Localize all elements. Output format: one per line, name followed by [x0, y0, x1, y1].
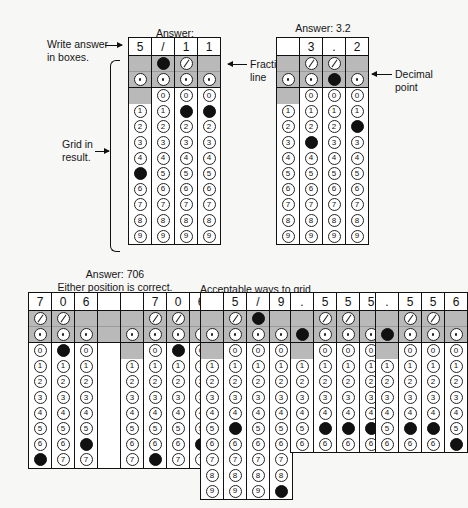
- written-answer-box[interactable]: [201, 293, 223, 311]
- written-answer-box[interactable]: /: [247, 293, 269, 311]
- bubble-1[interactable]: 1: [381, 360, 394, 373]
- bubble-6[interactable]: 6: [282, 183, 295, 196]
- fraction-slash-bubble[interactable]: [305, 57, 318, 70]
- bubble-cell-8[interactable]: 8: [129, 213, 151, 229]
- bubble-0[interactable]: 0: [319, 344, 332, 357]
- bubble-filled-6[interactable]: 6: [450, 438, 463, 451]
- fraction-slash-bubble[interactable]: [34, 312, 47, 325]
- bubble-cell-6[interactable]: 6: [29, 437, 51, 453]
- bubble-9[interactable]: 9: [351, 230, 364, 243]
- bubble-cell-4[interactable]: 4: [121, 405, 143, 421]
- bubble-cell-4[interactable]: 4: [198, 150, 220, 166]
- bubble-cell-6[interactable]: 6: [399, 437, 421, 453]
- bubble-0[interactable]: 0: [404, 344, 417, 357]
- bubble-0[interactable]: 0: [203, 89, 216, 102]
- bubble-3[interactable]: 3: [126, 391, 139, 404]
- bubble-0[interactable]: 0: [275, 344, 288, 357]
- bubble-cell-6[interactable]: 6: [121, 437, 143, 453]
- bubble-4[interactable]: 4: [351, 152, 364, 165]
- bubble-cell-7[interactable]: 7: [201, 452, 223, 468]
- written-answer-box[interactable]: [277, 38, 299, 56]
- bubble-cell-4[interactable]: 4: [52, 405, 74, 421]
- bubble-cell-6[interactable]: 6: [291, 437, 313, 453]
- bubble-cell-2[interactable]: 2: [376, 374, 398, 390]
- bubble-5[interactable]: 5: [34, 422, 47, 435]
- bubble-cell-0[interactable]: 0: [75, 343, 97, 359]
- bubble-cell-3[interactable]: 3: [277, 135, 299, 151]
- bubble-cell-7[interactable]: 7: [129, 197, 151, 213]
- bubble-cell-4[interactable]: 4: [314, 405, 336, 421]
- bubble-cell-0[interactable]: 0: [167, 343, 189, 359]
- bubble-cell-6[interactable]: 6: [167, 437, 189, 453]
- bubble-4[interactable]: 4: [149, 407, 162, 420]
- bubble-6[interactable]: 6: [57, 438, 70, 451]
- bubble-cell-9[interactable]: 9: [323, 228, 345, 244]
- bubble-6[interactable]: 6: [351, 183, 364, 196]
- written-answer-box[interactable]: 5: [224, 293, 246, 311]
- bubble-cell-1[interactable]: 1: [314, 359, 336, 375]
- decimal-point-bubble[interactable]: [450, 328, 463, 341]
- bubble-cell-5[interactable]: 5: [314, 421, 336, 437]
- bubble-0[interactable]: 0: [252, 344, 265, 357]
- bubble-2[interactable]: 2: [80, 375, 93, 388]
- written-answer-box[interactable]: 7: [144, 293, 166, 311]
- fraction-slash-bubble[interactable]: [342, 312, 355, 325]
- bubble-cell-5[interactable]: 5: [52, 421, 74, 437]
- bubble-filled-2[interactable]: 2: [351, 120, 364, 133]
- bubble-cell-5[interactable]: 5: [291, 421, 313, 437]
- bubble-cell-2[interactable]: 2: [175, 119, 197, 135]
- bubble-cell-7[interactable]: 7: [75, 452, 97, 468]
- bubble-2[interactable]: 2: [57, 375, 70, 388]
- bubble-4[interactable]: 4: [282, 152, 295, 165]
- bubble-9[interactable]: 9: [203, 230, 216, 243]
- bubble-2[interactable]: 2: [404, 375, 417, 388]
- bubble-3[interactable]: 3: [229, 391, 242, 404]
- bubble-filled-1[interactable]: 1: [180, 105, 193, 118]
- bubble-cell-0[interactable]: 0: [346, 88, 368, 104]
- decimal-point-bubble[interactable]: [342, 328, 355, 341]
- bubble-cell-2[interactable]: 2: [247, 374, 269, 390]
- bubble-filled-0[interactable]: 0: [172, 344, 185, 357]
- bubble-cell-0[interactable]: 0: [270, 343, 292, 359]
- bubble-cell-3[interactable]: 3: [175, 135, 197, 151]
- bubble-cell-9[interactable]: 9: [346, 228, 368, 244]
- bubble-cell-2[interactable]: 2: [167, 374, 189, 390]
- bubble-8[interactable]: 8: [157, 214, 170, 227]
- decimal-point-bubble[interactable]: [206, 328, 219, 341]
- bubble-2[interactable]: 2: [342, 375, 355, 388]
- bubble-0[interactable]: 0: [229, 344, 242, 357]
- bubble-2[interactable]: 2: [427, 375, 440, 388]
- bubble-6[interactable]: 6: [206, 438, 219, 451]
- bubble-cell-7[interactable]: 7: [175, 197, 197, 213]
- bubble-filled-7[interactable]: 7: [34, 453, 47, 466]
- bubble-2[interactable]: 2: [296, 375, 309, 388]
- bubble-1[interactable]: 1: [172, 360, 185, 373]
- bubble-cell-6[interactable]: 6: [337, 437, 359, 453]
- bubble-cell-8[interactable]: 8: [175, 213, 197, 229]
- bubble-filled-5[interactable]: 5: [342, 422, 355, 435]
- bubble-2[interactable]: 2: [282, 120, 295, 133]
- bubble-3[interactable]: 3: [134, 136, 147, 149]
- bubble-cell-7[interactable]: 7: [270, 452, 292, 468]
- bubble-cell-3[interactable]: 3: [52, 390, 74, 406]
- bubble-cell-9[interactable]: 9: [247, 483, 269, 499]
- bubble-cell-3[interactable]: 3: [224, 390, 246, 406]
- bubble-1[interactable]: 1: [206, 360, 219, 373]
- bubble-6[interactable]: 6: [328, 183, 341, 196]
- bubble-cell-1[interactable]: 1: [300, 104, 322, 120]
- bubble-8[interactable]: 8: [134, 214, 147, 227]
- bubble-cell-4[interactable]: 4: [224, 405, 246, 421]
- bubble-cell-7[interactable]: 7: [152, 197, 174, 213]
- bubble-1[interactable]: 1: [305, 105, 318, 118]
- bubble-cell-2[interactable]: 2: [399, 374, 421, 390]
- bubble-cell-4[interactable]: 4: [144, 405, 166, 421]
- bubble-4[interactable]: 4: [305, 152, 318, 165]
- bubble-9[interactable]: 9: [328, 230, 341, 243]
- bubble-cell-8[interactable]: 8: [198, 213, 220, 229]
- bubble-cell-1[interactable]: 1: [167, 359, 189, 375]
- bubble-6[interactable]: 6: [404, 438, 417, 451]
- bubble-0[interactable]: 0: [157, 89, 170, 102]
- decimal-point-bubble[interactable]: [305, 73, 318, 86]
- bubble-5[interactable]: 5: [252, 422, 265, 435]
- bubble-cell-2[interactable]: 2: [201, 374, 223, 390]
